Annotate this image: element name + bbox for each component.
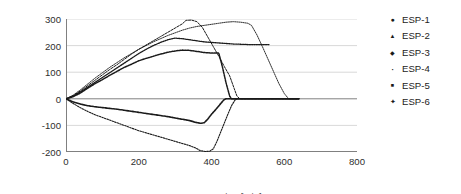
legend-label: ESP-6: [402, 96, 430, 107]
legend-label: ESP-3: [402, 47, 430, 58]
x-axis-title: Measurement time[min]: [66, 171, 357, 194]
legend-item-esp-4[interactable]: ·ESP-4: [387, 61, 457, 78]
legend-item-esp-3[interactable]: ◆ESP-3: [387, 44, 457, 61]
legend-item-esp-6[interactable]: ✦ESP-6: [387, 94, 457, 111]
x-tick-label: 400: [203, 156, 219, 167]
square-marker-icon: ■: [387, 82, 398, 88]
y-tick-label: 100: [45, 67, 61, 78]
star-marker-icon: ✦: [387, 98, 398, 106]
legend-item-esp-2[interactable]: ▲ESP-2: [387, 28, 457, 45]
legend-label: ESP-1: [402, 14, 430, 25]
plot-svg: [66, 19, 357, 152]
legend-label: ESP-5: [402, 80, 430, 91]
legend-label: ESP-4: [402, 63, 430, 74]
circle-marker-icon: ●: [387, 16, 398, 23]
y-tick-label: 300: [45, 14, 61, 25]
y-tick-label: 200: [45, 40, 61, 51]
x-tick-label: 800: [349, 156, 365, 167]
x-tick-label: 0: [63, 156, 68, 167]
legend-item-esp-5[interactable]: ■ESP-5: [387, 77, 457, 94]
series-line-esp-4: [66, 22, 299, 99]
plot-area: 3002001000-100-200 0200400600800 Measure…: [66, 19, 357, 152]
diamond-marker-icon: ◆: [387, 49, 398, 56]
triangle-marker-icon: ▲: [387, 33, 398, 39]
y-tick-label: -100: [42, 120, 61, 131]
series-line-esp-1: [66, 50, 299, 99]
legend: ●ESP-1▲ESP-2◆ESP-3·ESP-4■ESP-5✦ESP-6: [387, 11, 457, 110]
chart-screenshot: Difference of remaining battery[mAh] 300…: [0, 0, 461, 194]
series-line-esp-3: [66, 38, 270, 99]
series-line-esp-5: [66, 99, 299, 123]
x-tick-label: 200: [131, 156, 147, 167]
legend-label: ESP-2: [402, 30, 430, 41]
legend-item-esp-1[interactable]: ●ESP-1: [387, 11, 457, 28]
dot-marker-icon: ·: [387, 63, 398, 75]
series-line-esp-2: [66, 20, 299, 99]
y-tick-label: -200: [42, 147, 61, 158]
x-tick-label: 600: [276, 156, 292, 167]
y-tick-label: 0: [56, 93, 61, 104]
